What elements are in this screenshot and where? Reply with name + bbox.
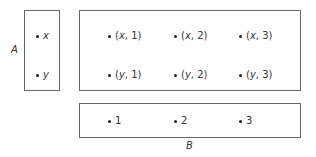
bullet-icon (36, 74, 39, 77)
set-b-element: 1 (108, 115, 121, 127)
set-a-box: x y (24, 10, 60, 91)
cartesian-product-box: (x, 1) (x, 2) (x, 3) (y, 1) (y, 2) (y, 3… (79, 10, 301, 91)
bullet-icon (174, 35, 177, 38)
bullet-icon (239, 35, 242, 38)
pair-element: (y, 2) (174, 69, 207, 81)
bullet-icon (174, 120, 177, 123)
set-a-label: A (11, 44, 18, 55)
set-b-element: 3 (239, 115, 252, 127)
pair-element: (x, 2) (174, 30, 207, 42)
pair-element: (y, 3) (239, 69, 272, 81)
set-b-box: 1 2 3 (79, 103, 301, 138)
bullet-icon (239, 74, 242, 77)
bullet-icon (36, 35, 39, 38)
bullet-icon (108, 74, 111, 77)
pair-element: (x, 1) (108, 30, 141, 42)
set-a-element: y (36, 69, 49, 81)
bullet-icon (108, 120, 111, 123)
pair-element: (x, 3) (239, 30, 272, 42)
bullet-icon (108, 35, 111, 38)
set-a-element: x (36, 30, 49, 42)
pair-element: (y, 1) (108, 69, 141, 81)
bullet-icon (174, 74, 177, 77)
set-b-label: B (186, 140, 193, 151)
bullet-icon (239, 120, 242, 123)
set-b-element: 2 (174, 115, 187, 127)
